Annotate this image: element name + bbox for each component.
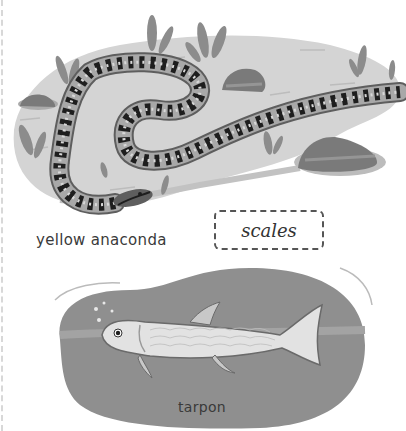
vocabulary-word: scales — [241, 220, 297, 241]
fish-label: tarpon — [178, 399, 226, 415]
vocabulary-word-box: scales — [214, 210, 324, 250]
illustration — [0, 0, 406, 431]
snake-label: yellow anaconda — [36, 231, 167, 249]
